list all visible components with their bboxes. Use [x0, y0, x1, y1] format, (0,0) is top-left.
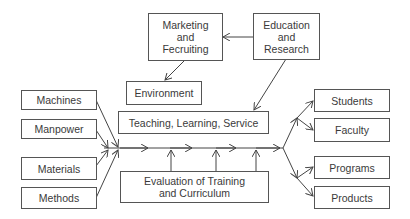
input-materials: Materials [21, 157, 97, 180]
output-students: Students [314, 89, 390, 112]
input-methods: Methods [21, 187, 97, 209]
output-faculty: Faculty [314, 118, 390, 142]
education-research-box: Education and Research [253, 13, 320, 60]
environment-box: Environment [126, 81, 202, 105]
marketing-recruiting-box: Marketing and Fecruiting [148, 13, 223, 61]
evaluation-box: Evaluation of Training and Curriculum [120, 171, 269, 203]
output-products: Products [314, 186, 390, 209]
output-programs: Programs [314, 156, 390, 179]
teaching-learning-service-box: Teaching, Learning, Service [118, 111, 269, 134]
input-machines: Machines [21, 90, 97, 110]
input-manpower: Manpower [21, 119, 97, 139]
